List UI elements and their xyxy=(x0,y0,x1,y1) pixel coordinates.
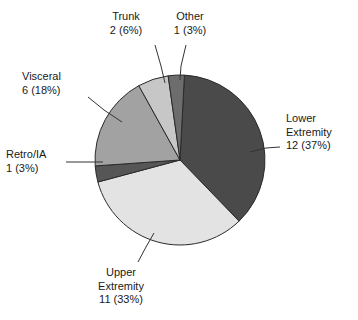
slice-label-lower-extremity: Lower Extremity 12 (37%) xyxy=(286,112,356,153)
slice-label-lower-extremity-name1: Lower xyxy=(286,112,356,126)
slice-label-visceral-value: 6 (18%) xyxy=(22,84,100,98)
slice-label-retro-ia-value: 1 (3%) xyxy=(6,162,80,176)
pie-slices-group xyxy=(95,75,265,245)
pie-chart-figure: Trunk 2 (6%) Other 1 (3%) Visceral 6 (18… xyxy=(0,0,358,320)
slice-label-visceral-name: Visceral xyxy=(22,70,100,84)
slice-label-other-name: Other xyxy=(162,10,218,24)
slice-label-retro-ia-name: Retro/IA xyxy=(6,148,80,162)
slice-label-visceral: Visceral 6 (18%) xyxy=(22,70,100,97)
slice-label-trunk-name: Trunk xyxy=(96,10,156,24)
slice-label-other: Other 1 (3%) xyxy=(162,10,218,37)
slice-label-upper-extremity-name2: Extremity xyxy=(78,280,164,294)
slice-label-lower-extremity-name2: Extremity xyxy=(286,126,356,140)
slice-label-trunk-value: 2 (6%) xyxy=(96,24,156,38)
slice-label-lower-extremity-value: 12 (37%) xyxy=(286,139,356,153)
slice-label-upper-extremity-value: 11 (33%) xyxy=(78,293,164,307)
slice-label-retro-ia: Retro/IA 1 (3%) xyxy=(6,148,80,175)
slice-label-upper-extremity: Upper Extremity 11 (33%) xyxy=(78,266,164,307)
slice-label-upper-extremity-name1: Upper xyxy=(78,266,164,280)
slice-label-other-value: 1 (3%) xyxy=(162,24,218,38)
slice-label-trunk: Trunk 2 (6%) xyxy=(96,10,156,37)
